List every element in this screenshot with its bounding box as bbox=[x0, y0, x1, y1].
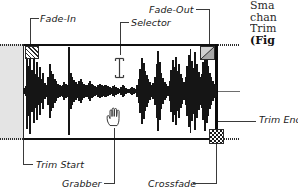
fade-out-diagonal-icon bbox=[201, 47, 214, 59]
callout-label-trim-end: Trim End bbox=[259, 114, 298, 125]
callout-label-fade-in: Fade-In bbox=[40, 13, 76, 24]
fade-out-handle[interactable] bbox=[200, 46, 215, 60]
leader-line-crossfade-horizontal bbox=[193, 183, 217, 184]
figure-root: Fade-In Fade-Out Selector Trim End Trim … bbox=[0, 0, 298, 195]
callout-label-grabber: Grabber bbox=[62, 178, 102, 189]
grabber-cursor[interactable] bbox=[105, 106, 125, 132]
leader-line-grabber-horizontal bbox=[104, 183, 115, 184]
leader-line-crossfade-vertical bbox=[216, 140, 217, 183]
body-text-line-1: Sma bbox=[250, 0, 298, 12]
leader-line-fade-out-horizontal bbox=[196, 9, 210, 10]
waveform-pane[interactable] bbox=[0, 44, 240, 140]
open-hand-icon bbox=[105, 106, 125, 128]
body-text-line-4: (Fig bbox=[250, 35, 298, 47]
leader-line-trim-start-horizontal bbox=[23, 164, 33, 165]
leader-line-selector-horizontal bbox=[120, 22, 129, 23]
fade-in-handle[interactable] bbox=[25, 46, 39, 59]
crossfade-handle[interactable] bbox=[209, 129, 224, 144]
callout-label-crossfade: Crossfade bbox=[148, 178, 196, 189]
waveform-sample bbox=[215, 85, 217, 96]
leader-line-fade-out-vertical bbox=[209, 9, 210, 47]
callout-label-selector: Selector bbox=[131, 17, 171, 28]
callout-label-fade-out: Fade-Out bbox=[149, 4, 194, 15]
i-beam-icon bbox=[113, 57, 126, 79]
leader-line-fade-in-horizontal bbox=[30, 18, 39, 19]
callout-label-trim-start: Trim Start bbox=[36, 159, 84, 170]
page-body-text-column: Sma chan Trim (Fig bbox=[250, 0, 298, 48]
leader-line-trim-start-vertical bbox=[23, 140, 24, 164]
leader-line-fade-in-vertical bbox=[30, 18, 31, 46]
untrimmed-region-left bbox=[0, 44, 23, 140]
selector-cursor[interactable] bbox=[113, 57, 126, 83]
